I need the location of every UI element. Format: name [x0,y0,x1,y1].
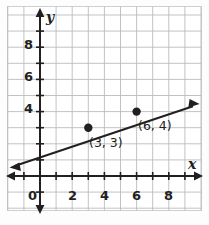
coordinate-plane-figure: y x 8 6 4 0 2 4 6 8 (3, 3) (6, 4) [0,0,209,225]
y-tick-label-4: 4 [24,102,33,115]
y-axis-label: y [46,10,54,24]
point-label-3-3: (3, 3) [89,137,123,150]
x-axis-label: x [188,157,196,171]
x-tick-label-8: 8 [164,189,173,202]
data-point-3-3 [84,124,92,132]
x-tick-label-6: 6 [132,189,141,202]
y-tick-label-8: 8 [24,38,33,51]
y-tick-label-6: 6 [24,70,33,83]
x-tick-label-0: 0 [28,189,37,202]
x-tick-label-2: 2 [68,189,77,202]
x-tick-label-4: 4 [100,189,109,202]
data-point-6-4 [132,107,140,115]
point-label-6-4: (6, 4) [138,120,172,133]
